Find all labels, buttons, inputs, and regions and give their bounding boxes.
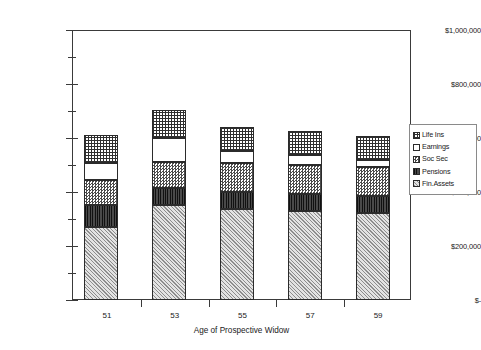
y-tick-0	[66, 300, 78, 301]
bar-column-55	[220, 127, 254, 300]
y-tick-minor-300000	[68, 219, 76, 220]
bar-segment-57-soc-sec	[288, 165, 322, 194]
y-tick-minor-700000	[68, 111, 76, 112]
bar-segment-51-fin-assets	[84, 227, 118, 300]
bar-segment-55-soc-sec	[220, 163, 254, 192]
bar-segment-53-soc-sec	[152, 162, 186, 188]
legend-item-earnings[interactable]: Earnings	[413, 141, 473, 153]
y-axis-label-1000000: $1,000,000	[415, 26, 481, 35]
legend-label-pensions: Pensions	[422, 168, 450, 176]
legend-swatch-life-ins-icon	[413, 132, 420, 139]
bar-segment-55-pensions	[220, 192, 254, 209]
x-tick-boundary-1	[141, 300, 142, 307]
bar-segment-53-life-ins	[152, 110, 186, 138]
legend-swatch-soc-sec-icon	[413, 156, 420, 163]
x-axis-label-55: 55	[213, 311, 273, 320]
x-tick-boundary-3	[276, 300, 277, 307]
y-axis-label-200000: $200,000	[415, 242, 481, 251]
bar-segment-55-earnings	[220, 151, 254, 163]
y-tick-minor-100000	[68, 273, 76, 274]
y-tick-minor-500000	[68, 165, 76, 166]
x-axis-label-53: 53	[145, 311, 205, 320]
bar-segment-53-earnings	[152, 138, 186, 162]
x-tick-boundary-2	[209, 300, 210, 307]
x-axis-label-59: 59	[348, 311, 408, 320]
bar-column-57	[288, 131, 322, 300]
legend-item-soc-sec[interactable]: Soc Sec	[413, 153, 473, 165]
bar-segment-53-fin-assets	[152, 205, 186, 300]
legend-swatch-fin-assets-icon	[413, 180, 420, 187]
x-tick-boundary-4	[344, 300, 345, 307]
x-axis-label-57: 57	[280, 311, 340, 320]
legend-label-earnings: Earnings	[422, 143, 449, 151]
legend-item-life-ins[interactable]: Life Ins	[413, 129, 473, 141]
legend-item-pensions[interactable]: Pensions	[413, 166, 473, 178]
bar-segment-57-life-ins	[288, 131, 322, 155]
y-tick-1000000	[66, 30, 78, 31]
legend-label-fin-assets: Fin.Assets	[422, 180, 454, 188]
bar-column-51	[84, 135, 118, 300]
bar-segment-51-soc-sec	[84, 180, 118, 205]
legend-swatch-earnings-icon	[413, 144, 420, 151]
chart-legend: Life Ins Earnings Soc Sec Pensions Fin.A…	[409, 124, 477, 195]
x-axis-label-51: 51	[77, 311, 137, 320]
y-tick-400000	[66, 192, 78, 193]
bar-column-59	[356, 136, 390, 300]
legend-swatch-pensions-icon	[413, 168, 420, 175]
bar-column-53	[152, 110, 186, 300]
bar-segment-59-pensions	[356, 196, 390, 213]
legend-item-fin-assets[interactable]: Fin.Assets	[413, 178, 473, 190]
bar-segment-51-life-ins	[84, 135, 118, 163]
legend-label-soc-sec: Soc Sec	[422, 155, 448, 163]
y-axis-label-0: $-	[415, 296, 481, 305]
legend-label-life-ins: Life Ins	[422, 131, 444, 139]
bar-segment-57-fin-assets	[288, 211, 322, 300]
bar-segment-55-life-ins	[220, 127, 254, 151]
stacked-bar-chart: $1,000,000 $800,000 $600,000 $400,000 $2…	[0, 0, 481, 350]
y-tick-200000	[66, 246, 78, 247]
bar-segment-51-earnings	[84, 163, 118, 180]
bar-segment-55-fin-assets	[220, 209, 254, 300]
bar-segment-59-earnings	[356, 160, 390, 167]
bar-segment-51-pensions	[84, 205, 118, 227]
y-tick-600000	[66, 138, 78, 139]
y-tick-minor-900000	[68, 57, 76, 58]
y-axis-label-800000: $800,000	[415, 80, 481, 89]
x-axis-title: Age of Prospective Widow	[72, 326, 411, 335]
bar-segment-59-soc-sec	[356, 167, 390, 196]
bar-segment-59-life-ins	[356, 136, 390, 160]
bar-segment-57-earnings	[288, 155, 322, 165]
bar-segment-53-pensions	[152, 188, 186, 205]
bar-segment-57-pensions	[288, 194, 322, 211]
y-tick-800000	[66, 84, 78, 85]
bar-segment-59-fin-assets	[356, 213, 390, 300]
